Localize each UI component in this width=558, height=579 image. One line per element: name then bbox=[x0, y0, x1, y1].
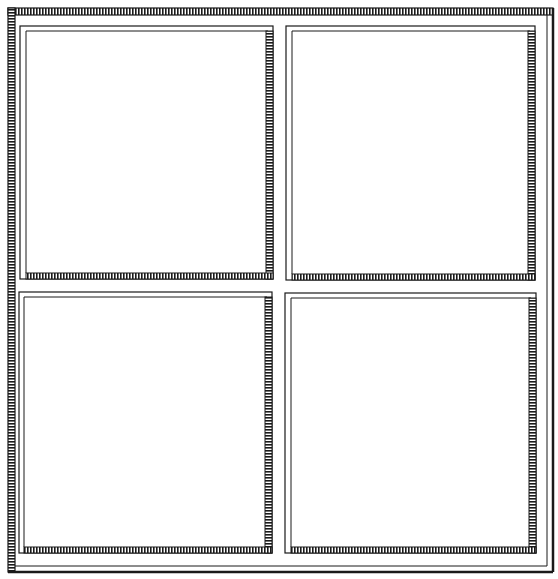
pane-top-left bbox=[20, 26, 273, 279]
window-drawing bbox=[0, 0, 558, 579]
pane-bottom-right bbox=[285, 293, 536, 553]
outer-frame bbox=[8, 8, 553, 572]
pane-top-right bbox=[286, 26, 535, 280]
pane-bottom-left bbox=[19, 292, 272, 553]
